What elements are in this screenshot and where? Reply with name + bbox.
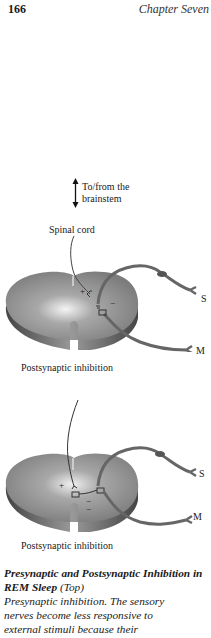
plus-sign: + (80, 286, 85, 296)
spinal-cord-illustration-bottom (0, 400, 211, 535)
brainstem-direction-label: To/from the brainstem (72, 178, 129, 208)
minus-sign: − (110, 298, 115, 308)
minus-sign: − (86, 504, 91, 514)
sensory-nerve-label-s: S (199, 468, 205, 479)
spinal-cord-diagram-bottom: + − − S M Postsynaptic inhibition (0, 400, 211, 560)
diagram-caption-top: Postsynaptic inhibition (21, 362, 113, 373)
spinal-cord-diagram-top: Spinal cord + − S M Postsynaptic inhibit… (0, 222, 211, 372)
diagram-caption-bottom: Postsynaptic inhibition (21, 540, 113, 551)
page-number: 166 (8, 2, 26, 17)
caption-line: external stimuli because their (4, 623, 138, 635)
plus-sign: + (59, 480, 64, 490)
figure-caption: Presynaptic and Postsynaptic Inhibition … (4, 566, 209, 636)
motor-nerve-label-m: M (196, 345, 205, 356)
caption-line: nerves become less responsive to (4, 609, 153, 621)
double-arrow-vertical-icon (72, 178, 79, 208)
running-head: Chapter Seven (139, 2, 209, 17)
spinal-cord-label: Spinal cord (49, 224, 95, 235)
caption-position-note: (Top) (60, 581, 84, 593)
brainstem-label-text: To/from the brainstem (82, 181, 129, 205)
sensory-nerve-label-s: S (201, 293, 207, 304)
caption-title: Presynaptic and Postsynaptic Inhibition … (4, 567, 202, 593)
motor-nerve-label-m: M (193, 511, 202, 522)
spinal-cord-illustration (0, 222, 211, 352)
caption-line: Presynaptic inhibition. The sensory (4, 595, 164, 607)
